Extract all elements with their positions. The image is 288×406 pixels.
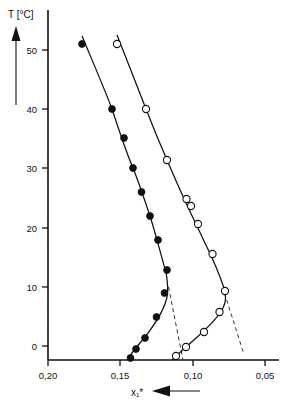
dashed-extrapolation-right bbox=[225, 293, 244, 353]
data-point-open bbox=[113, 40, 120, 47]
open-curve-path bbox=[117, 35, 226, 360]
data-point-filled bbox=[109, 106, 116, 113]
data-point-filled bbox=[142, 335, 149, 342]
data-point-filled bbox=[153, 314, 160, 321]
x-axis-title-base: x₁* bbox=[131, 387, 143, 398]
x-axis-ticks: 0,20 0,15 0,10 0,05 bbox=[39, 360, 275, 381]
filled-curve-path bbox=[82, 36, 168, 357]
data-point-filled bbox=[138, 189, 145, 196]
dashed-extrapolation-left bbox=[169, 287, 184, 360]
data-point-open bbox=[163, 156, 170, 163]
data-point-open bbox=[221, 287, 228, 294]
data-point-filled bbox=[127, 355, 134, 362]
data-point-filled bbox=[121, 135, 128, 142]
data-point-open bbox=[182, 343, 189, 350]
y-tick-label-40: 40 bbox=[26, 104, 37, 115]
data-point-open bbox=[183, 195, 190, 202]
data-point-filled bbox=[164, 267, 171, 274]
data-point-open bbox=[172, 352, 179, 359]
data-point-open bbox=[142, 105, 149, 112]
data-point-open bbox=[200, 328, 207, 335]
data-point-open bbox=[187, 202, 194, 209]
x-tick-label-005: 0,05 bbox=[256, 370, 275, 381]
y-tick-label-30: 30 bbox=[26, 163, 37, 174]
chart-figure: 50 40 30 20 10 0 0,20 0,15 0,10 0,05 T [… bbox=[0, 0, 288, 406]
series-filled-circle bbox=[79, 36, 171, 361]
y-axis-arrow bbox=[12, 26, 21, 105]
dashed-extrapolation-lines bbox=[169, 287, 244, 360]
data-point-filled bbox=[161, 290, 168, 297]
data-point-filled bbox=[79, 41, 86, 48]
series-open-circle bbox=[113, 35, 228, 360]
data-point-filled bbox=[147, 213, 154, 220]
y-axis-ticks: 50 40 30 20 10 0 bbox=[26, 45, 48, 352]
data-point-open bbox=[216, 308, 223, 315]
y-tick-label-0: 0 bbox=[32, 341, 37, 352]
y-tick-label-50: 50 bbox=[26, 45, 37, 56]
x-tick-label-010: 0,10 bbox=[184, 370, 203, 381]
data-point-open bbox=[194, 220, 201, 227]
x-axis-arrow bbox=[152, 386, 200, 397]
y-axis-title: T [°C] bbox=[8, 9, 34, 20]
phase-diagram-plot: 50 40 30 20 10 0 0,20 0,15 0,10 0,05 T [… bbox=[0, 0, 288, 406]
data-point-filled bbox=[155, 237, 162, 244]
x-tick-label-015: 0,15 bbox=[111, 370, 130, 381]
y-tick-label-10: 10 bbox=[26, 282, 37, 293]
data-point-filled bbox=[133, 346, 140, 353]
x-axis-title-group: x₁* bbox=[131, 387, 143, 398]
data-point-open bbox=[209, 250, 216, 257]
x-tick-label-020: 0,20 bbox=[39, 370, 58, 381]
data-point-filled bbox=[130, 165, 137, 172]
y-tick-label-20: 20 bbox=[26, 223, 37, 234]
